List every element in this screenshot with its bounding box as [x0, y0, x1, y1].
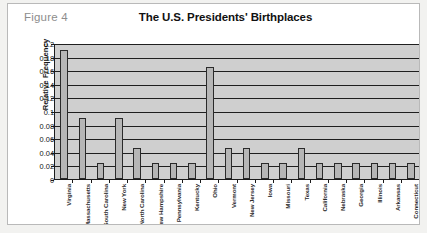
- y-tick-label: 0.18: [12, 53, 54, 62]
- x-tick-mark: [91, 180, 92, 183]
- bar: [334, 163, 342, 179]
- gridline: [55, 44, 419, 45]
- y-tick-label: 0: [12, 176, 54, 185]
- y-tick-label: 0.02: [12, 162, 54, 171]
- bar: [115, 118, 123, 179]
- bar: [316, 163, 324, 179]
- x-tick-mark: [328, 180, 329, 183]
- x-tick-label: New York: [120, 184, 127, 211]
- bar: [133, 148, 141, 179]
- y-tick-label: 0.1: [12, 108, 54, 117]
- gridline: [55, 139, 419, 140]
- bar: [371, 163, 379, 179]
- x-tick-mark: [72, 180, 73, 183]
- x-tick-mark: [182, 180, 183, 183]
- x-tick-mark: [255, 180, 256, 183]
- x-tick-mark: [237, 180, 238, 183]
- x-tick-label: Virginia: [65, 184, 72, 206]
- bar: [352, 163, 360, 179]
- bar: [170, 163, 178, 179]
- x-tick-label: New Hampshire: [157, 184, 164, 225]
- x-tick-label: Iowa: [266, 184, 273, 197]
- x-tick-label: South Carolina: [102, 184, 109, 225]
- y-tick-label: 0.14: [12, 80, 54, 89]
- gridline: [55, 153, 419, 154]
- bar: [206, 67, 214, 179]
- x-tick-label: Illinois: [376, 184, 383, 203]
- bar: [261, 163, 269, 179]
- x-tick-label: Massachusetts: [84, 184, 91, 225]
- bar: [225, 148, 233, 179]
- bar-chart: Relative Frequency 0.20.180.160.140.120.…: [8, 34, 420, 224]
- x-axis-labels: VirginiaMassachusettsSouth CarolinaNew Y…: [54, 184, 419, 224]
- y-tick-label: 0.16: [12, 67, 54, 76]
- x-tick-mark: [127, 180, 128, 183]
- bar: [243, 148, 251, 179]
- bar: [188, 163, 196, 179]
- bar: [389, 163, 397, 179]
- gridline: [55, 166, 419, 167]
- x-tick-label: Connecticut: [412, 184, 419, 219]
- bar: [79, 118, 87, 179]
- x-tick-mark: [164, 180, 165, 183]
- x-tick-mark: [310, 180, 311, 183]
- x-tick-mark: [364, 180, 365, 183]
- figure-card: Figure 4 The U.S. Presidents' Birthplace…: [7, 3, 420, 225]
- plot-canvas: [54, 44, 419, 180]
- gridline: [55, 71, 419, 72]
- gridline: [55, 85, 419, 86]
- y-tick-label: 0.08: [12, 121, 54, 130]
- x-tick-label: New Jersey: [248, 184, 255, 217]
- page-background: Figure 4 The U.S. Presidents' Birthplace…: [0, 0, 427, 233]
- y-tick-label: 0.06: [12, 135, 54, 144]
- x-tick-mark: [200, 180, 201, 183]
- x-tick-label: Missouri: [284, 184, 291, 209]
- y-axis-ticks: 0.20.180.160.140.120.10.080.060.040.020: [8, 44, 54, 180]
- x-tick-label: North Carolina: [138, 184, 145, 225]
- y-tick-label: 0.2: [12, 40, 54, 49]
- x-tick-mark: [145, 180, 146, 183]
- gridline: [55, 98, 419, 99]
- x-tick-label: Vermont: [230, 184, 237, 208]
- x-tick-label: Pennsylvania: [175, 184, 182, 222]
- gridline: [55, 58, 419, 59]
- gridline: [55, 126, 419, 127]
- bar: [152, 163, 160, 179]
- plot-area: [54, 44, 419, 180]
- gridline: [55, 112, 419, 113]
- x-tick-mark: [346, 180, 347, 183]
- bar: [97, 163, 105, 179]
- bar: [279, 163, 287, 179]
- x-tick-label: Georgia: [357, 184, 364, 207]
- x-tick-mark: [383, 180, 384, 183]
- y-tick-label: 0.04: [12, 148, 54, 157]
- x-tick-label: California: [321, 184, 328, 212]
- x-tick-mark: [218, 180, 219, 183]
- x-tick-label: Texas: [303, 184, 310, 201]
- chart-title: The U.S. Presidents' Birthplaces: [8, 11, 419, 23]
- x-tick-mark: [401, 180, 402, 183]
- x-tick-label: Arkansas: [394, 184, 401, 211]
- bar: [60, 50, 68, 179]
- y-tick-label: 0.12: [12, 94, 54, 103]
- bar: [298, 148, 306, 179]
- x-tick-mark: [109, 180, 110, 183]
- x-tick-label: Nebraska: [339, 184, 346, 211]
- x-tick-mark: [273, 180, 274, 183]
- x-tick-label: Ohio: [211, 184, 218, 198]
- x-tick-mark: [419, 180, 420, 183]
- bar: [407, 163, 415, 179]
- x-tick-mark: [291, 180, 292, 183]
- x-tick-label: Kentucky: [193, 184, 200, 211]
